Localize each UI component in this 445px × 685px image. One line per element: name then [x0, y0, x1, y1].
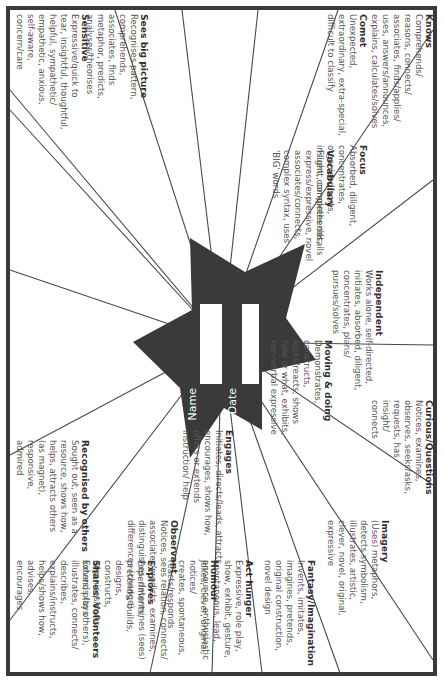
- section-heading: Curious/Questions: [424, 400, 435, 530]
- name-field[interactable]: [200, 304, 222, 384]
- section-heading: Comet: [358, 14, 369, 139]
- section-heading: Focus: [358, 145, 369, 263]
- section-imagery: Imagery (Uses) metaphors, detects symbol…: [325, 520, 391, 640]
- date-field[interactable]: [242, 304, 259, 384]
- section-heading: Independent: [374, 270, 385, 395]
- section-body: Fluent, comprehends, express/expressive,…: [270, 150, 325, 275]
- section-independent: Independent Works alone, self-directed, …: [330, 270, 385, 395]
- section-body: Unexpected, extraordinary, extra-special…: [325, 14, 358, 139]
- section-body: Notices, sees relation, connects/ associ…: [125, 520, 169, 670]
- section-heading: Vocabulary: [325, 150, 336, 275]
- section-heading: Knows: [424, 14, 435, 154]
- section-heading: Imagery: [380, 520, 391, 640]
- section-body: Jokes, clever, original, notices/ create…: [165, 560, 209, 670]
- section-fantasy-imagination: Fantasy/Imagination Invents, imitates, i…: [262, 560, 317, 675]
- section-body: (Uses) metaphors, detects symbolism, ill…: [325, 520, 380, 640]
- section-moving-doing: Moving & doing Demonstrates, constructs,…: [268, 340, 334, 470]
- section-body: Comprehends/ reasons, connects/ associat…: [369, 14, 424, 154]
- section-body: Recognises pattern, comprehends, associa…: [84, 14, 139, 144]
- section-heading: Humour: [209, 560, 220, 670]
- section-heading: Sees big picture: [139, 14, 150, 144]
- section-heading: Act hunger: [244, 560, 255, 675]
- section-heading: Moving & doing: [323, 340, 334, 470]
- section-vocabulary: Vocabulary Fluent, comprehends, express/…: [270, 150, 336, 275]
- date-label: Date: [226, 388, 239, 414]
- name-label: Name: [186, 388, 199, 420]
- section-body: Notices, examines, observes, seeks/asks,…: [369, 400, 424, 530]
- section-humour: Humour Jokes, clever, original, notices/…: [165, 560, 220, 670]
- section-heading: Fantasy/Imagination: [306, 560, 317, 675]
- section-body: Demonstrates, constructs, looks/reacts, …: [268, 340, 323, 470]
- section-knows: Knows Comprehends/ reasons, connects/ as…: [369, 14, 435, 154]
- section-body: Invents, imitates, imagines, pretends, o…: [262, 560, 306, 675]
- section-sees-big-picture: Sees big picture Recognises pattern, com…: [84, 14, 150, 144]
- section-sensitive: Sensitive Expressive/quick to tear, insi…: [14, 14, 91, 144]
- section-curious-questions: Curious/Questions Notices, examines, obs…: [369, 400, 435, 530]
- section-body: Expressive/quick to tear, insightful, th…: [14, 14, 80, 144]
- section-comet: Comet Unexpected, extraordinary, extra-s…: [325, 14, 369, 139]
- section-body: Works alone, self-directed, initiates, a…: [330, 270, 374, 395]
